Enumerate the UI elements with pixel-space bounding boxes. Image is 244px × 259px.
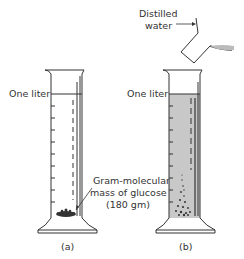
glucose-solution-diagram: One liter Gram-molecular mass of glucose… [0,0,244,259]
annotation-line-1: Gram-molecular [93,175,170,186]
distilled-label: Distilled [139,8,177,19]
water-stream [210,45,234,50]
annotation-line-3: (180 gm) [106,199,150,210]
glucose-pile [56,209,76,218]
one-liter-label-b: One liter [127,88,168,99]
caption-a: (a) [61,241,74,252]
pouring-beaker [181,18,232,63]
one-liter-label-a: One liter [9,88,50,99]
caption-b: (b) [179,241,192,252]
water-label: water [145,20,172,31]
annotation-line-2: mass of glucose [90,187,167,198]
